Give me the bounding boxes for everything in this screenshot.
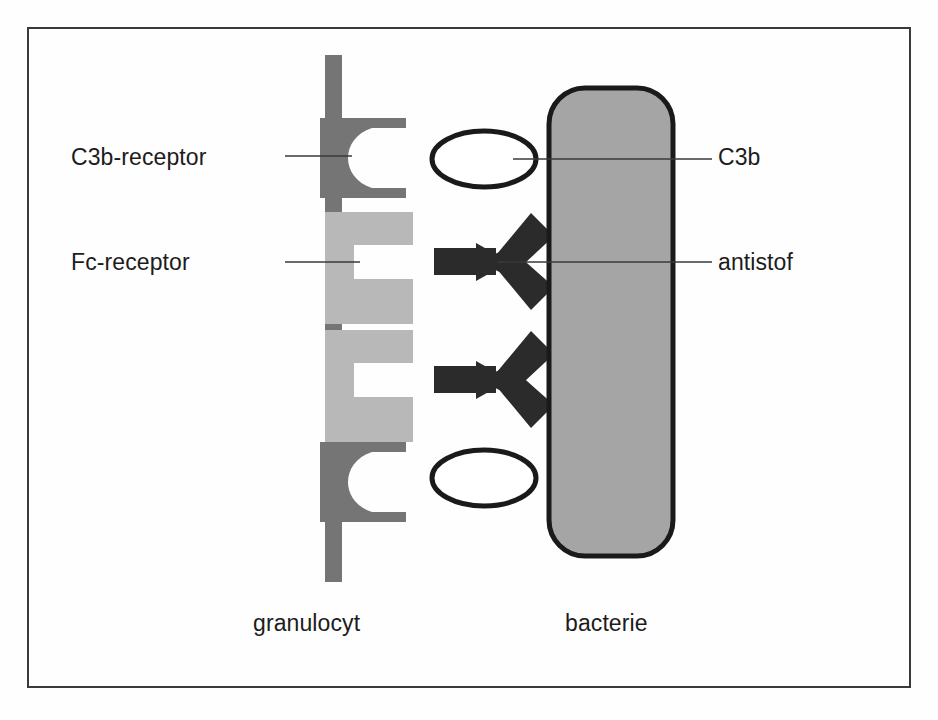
c3b-receptor-lower [320,442,406,522]
label-antistof: antistof [718,249,793,275]
granulocyte-cell [320,55,413,582]
c3b-receptor-upper [320,118,406,198]
diagram-canvas [0,0,938,720]
figure-page: C3b-receptor Fc-receptor C3b antistof gr… [0,0,938,720]
antibody-lower [434,331,554,428]
label-granulocyt: granulocyt [253,610,360,636]
label-c3b: C3b [718,144,761,170]
label-fc-receptor: Fc-receptor [71,249,190,275]
c3b-molecule-lower [432,450,536,506]
label-bacterie: bacterie [565,610,648,636]
label-c3b-receptor: C3b-receptor [71,144,206,170]
fc-receptor-upper [325,212,413,324]
fc-receptor-lower [325,330,413,442]
